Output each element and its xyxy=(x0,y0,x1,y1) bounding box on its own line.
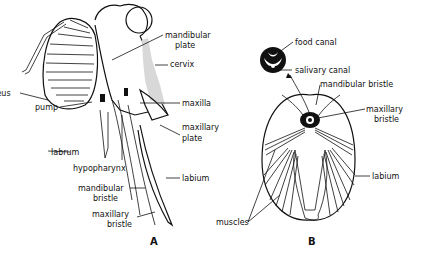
label-maxillary-bristle-a: maxillary xyxy=(92,210,129,219)
label-labrum: labrum xyxy=(51,148,80,157)
panel-letter-a: A xyxy=(150,236,158,247)
svg-text:bristle: bristle xyxy=(93,194,118,203)
label-hypopharynx: hypopharynx xyxy=(73,164,126,173)
insect-mouthparts-diagram: mandibular plate cervix maxilla maxillar… xyxy=(0,0,427,253)
label-labium-a: labium xyxy=(182,174,209,183)
panel-letter-b: B xyxy=(308,236,316,247)
label-mandibular-bristle-a: mandibular xyxy=(78,184,124,193)
label-maxillary-plate: maxillary xyxy=(182,123,219,132)
panel-b-labels: food canal salivary canal mandibular bri… xyxy=(216,38,403,247)
panel-a-labels: mandibular plate cervix maxilla maxillar… xyxy=(0,31,219,247)
label-food-canal: food canal xyxy=(295,38,337,47)
label-clypeus: clypeus xyxy=(0,89,11,98)
svg-text:plate: plate xyxy=(182,134,202,143)
label-labium-b: labium xyxy=(372,172,399,181)
label-salivary-canal: salivary canal xyxy=(295,66,350,75)
label-maxilla: maxilla xyxy=(182,99,211,108)
svg-text:bristle: bristle xyxy=(374,115,399,124)
label-muscles: muscles xyxy=(216,218,249,227)
label-maxillary-bristle-b: maxillary xyxy=(366,105,403,114)
label-cervix: cervix xyxy=(170,60,195,69)
svg-text:plate: plate xyxy=(175,41,195,50)
label-mandibular-bristle-b: mandibular bristle xyxy=(320,80,393,89)
svg-text:bristle: bristle xyxy=(107,220,132,229)
label-pump: pump xyxy=(35,103,58,112)
label-mandibular-plate: mandibular xyxy=(165,31,211,40)
